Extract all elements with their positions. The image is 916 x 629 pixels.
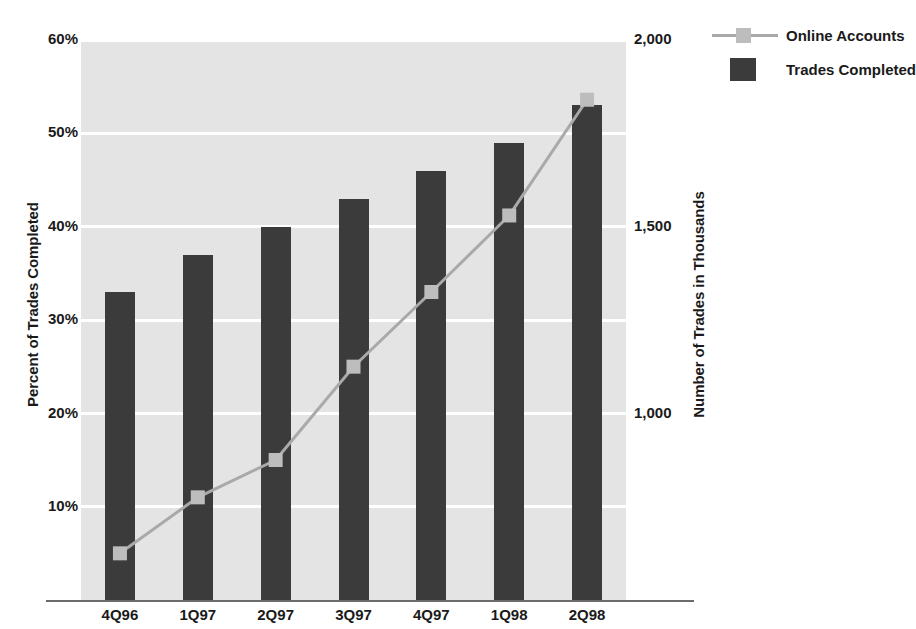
line-marker (191, 490, 205, 504)
left-tick-50: 50% (26, 124, 78, 139)
line-marker (580, 93, 594, 107)
left-tick-60: 60% (26, 31, 78, 46)
legend-item-online-accounts[interactable]: Online Accounts (712, 18, 912, 52)
x-tick-label: 1Q97 (159, 606, 237, 623)
right-axis-ticks: 2,000 1,500 1,000 (634, 0, 694, 629)
plot-area (81, 40, 626, 600)
x-tick-label: 2Q97 (237, 606, 315, 623)
line-marker (113, 546, 127, 560)
line-marker (424, 285, 438, 299)
x-tick-label: 4Q96 (81, 606, 159, 623)
dual-axis-chart: 60% 50% 40% 30% 20% 10% 2,000 1,500 1,00… (0, 0, 916, 629)
line-marker (347, 360, 361, 374)
x-axis-ticks: 4Q961Q972Q973Q974Q971Q982Q98 (81, 606, 626, 629)
line-marker-icon (712, 24, 778, 46)
line-marker (502, 208, 516, 222)
legend: Online Accounts Trades Completed (712, 18, 912, 86)
legend-label-trades-completed: Trades Completed (778, 61, 916, 78)
line-marker (269, 453, 283, 467)
left-axis-title: Percent of Trades Completed (24, 185, 41, 425)
square-swatch-icon (712, 58, 778, 80)
legend-label-online-accounts: Online Accounts (778, 27, 905, 44)
legend-item-trades-completed[interactable]: Trades Completed (712, 52, 912, 86)
line-series (81, 40, 626, 600)
x-tick-label: 3Q97 (315, 606, 393, 623)
left-tick-10: 10% (26, 498, 78, 513)
right-axis-title: Number of Trades in Thousands (690, 185, 707, 425)
x-axis-line (46, 600, 694, 602)
right-tick-1000: 1,000 (634, 405, 694, 420)
x-tick-label: 4Q97 (392, 606, 470, 623)
x-tick-label: 1Q98 (470, 606, 548, 623)
right-tick-1500: 1,500 (634, 218, 694, 233)
x-tick-label: 2Q98 (548, 606, 626, 623)
right-tick-2000: 2,000 (634, 31, 694, 46)
